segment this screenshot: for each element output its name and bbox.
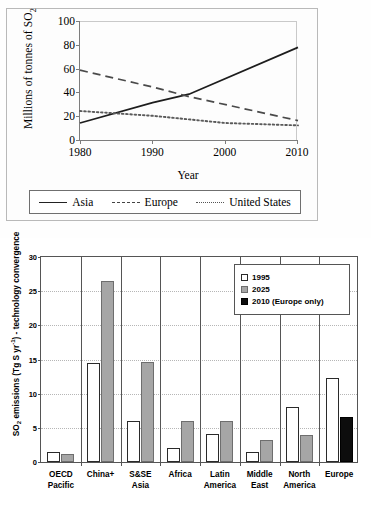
xtick-line1: North xyxy=(283,469,315,480)
bar-2025-middle xyxy=(260,440,273,462)
bar-chart-legend: 1995 2025 2010 (Europe only) xyxy=(234,264,350,315)
bar-2025-north xyxy=(300,435,313,462)
xtick-line1: Africa xyxy=(169,469,192,480)
xtick-line2: Pacific xyxy=(48,480,74,491)
dotted-line-icon xyxy=(196,202,224,203)
xtick-line2: America xyxy=(204,480,236,491)
legend-label-2010: 2010 (Europe only) xyxy=(252,297,324,306)
black-square-icon xyxy=(241,298,248,305)
legend-item-1995: 1995 xyxy=(241,273,343,282)
bar-1995-china xyxy=(87,363,100,462)
bar-ytick-mark-0 xyxy=(38,462,41,463)
series-line-asia xyxy=(80,47,298,123)
xtick-line2: East xyxy=(247,480,273,491)
line-y-label-subscript: 2 xyxy=(29,8,38,12)
bar-xtick-africa: Africa xyxy=(169,469,192,480)
bar-y-label-rest: emissions (Tg S yr xyxy=(11,345,21,421)
bar-y-label-sup: -1 xyxy=(10,339,16,344)
xtick-line1: S&SE xyxy=(129,469,151,480)
bar-1995-north xyxy=(286,407,299,462)
line-chart-figure: Millions of tonnes of SO2 0 20 40 60 80 … xyxy=(6,8,318,221)
category-separator-3 xyxy=(160,257,161,462)
bar-xtick-sse: S&SEAsia xyxy=(129,469,151,491)
bar-ytick-mark-15 xyxy=(38,360,41,361)
bar-xtick-mark-1 xyxy=(81,462,82,466)
line-xtick-2000: 2000 xyxy=(213,146,236,158)
white-square-icon xyxy=(241,274,248,281)
xtick-line1: OECD xyxy=(48,469,74,480)
line-chart-series-group xyxy=(80,21,298,141)
bar-1995-oecd xyxy=(47,452,60,462)
category-separator-4 xyxy=(200,257,201,462)
legend-label-united-states: United States xyxy=(229,196,291,208)
bar-ytick-mark-25 xyxy=(38,291,41,292)
category-separator-1 xyxy=(81,257,82,462)
bar-xtick-north: NorthAmerica xyxy=(283,469,315,491)
bar-xtick-middle: MiddleEast xyxy=(247,469,273,491)
bar-2025-sse xyxy=(141,362,154,462)
bar-ytick-mark-5 xyxy=(38,428,41,429)
legend-label-1995: 1995 xyxy=(252,273,270,282)
bar-xtick-mark-4 xyxy=(200,462,201,466)
bar-xtick-mark-6 xyxy=(280,462,281,466)
line-xtick-1980: 1980 xyxy=(69,146,92,158)
bar-chart-figure: SO2 emissions (Tg S yr-1) - technology c… xyxy=(0,238,371,509)
bar-1995-europe xyxy=(326,378,339,462)
legend-item-asia: Asia xyxy=(39,196,93,208)
dashed-line-icon xyxy=(112,202,140,203)
bar-y-label-tail: ) - technology convergence xyxy=(11,232,21,340)
line-chart-plot-area: 0 20 40 60 80 100 1980 1990 2000 2010 xyxy=(79,21,297,141)
bar-xtick-mark-7 xyxy=(319,462,320,466)
bar-y-label-sub: 2 xyxy=(16,421,22,424)
bar-xtick-latin: LatinAmerica xyxy=(204,469,236,491)
bar-1995-middle xyxy=(246,452,259,462)
legend-item-united-states: United States xyxy=(196,196,291,208)
bar-2025-latin xyxy=(220,421,233,462)
bar-1995-africa xyxy=(167,448,180,462)
bar-xtick-mark-3 xyxy=(160,462,161,466)
legend-label-2025: 2025 xyxy=(252,285,270,294)
bar-2010-europe xyxy=(340,417,353,463)
line-chart-x-axis-label: Year xyxy=(79,169,297,181)
legend-item-2010-europe-only: 2010 (Europe only) xyxy=(241,297,343,306)
legend-label-asia: Asia xyxy=(72,196,93,208)
bar-2025-china xyxy=(101,281,114,463)
xtick-line1: China+ xyxy=(87,469,115,480)
gray-square-icon xyxy=(241,286,248,293)
bar-1995-latin xyxy=(206,434,219,462)
bar-xtick-mark-5 xyxy=(240,462,241,466)
xtick-line1: Europe xyxy=(325,469,353,480)
line-chart-legend: Asia Europe United States xyxy=(29,190,301,214)
bar-2025-oecd xyxy=(61,454,74,462)
bar-chart-plot-area: 051015202530 OECDPacificChina+S&SEAsiaAf… xyxy=(40,256,358,463)
category-separator-2 xyxy=(121,257,122,462)
xtick-line1: Latin xyxy=(204,469,236,480)
xtick-line2: America xyxy=(283,480,315,491)
bar-xtick-mark-2 xyxy=(121,462,122,466)
bar-ytick-mark-20 xyxy=(38,325,41,326)
gridline-15 xyxy=(41,360,357,361)
bar-ytick-mark-30 xyxy=(38,257,41,258)
line-chart-y-axis-label: Millions of tonnes of SO2 xyxy=(22,0,37,144)
legend-item-europe: Europe xyxy=(112,196,178,208)
solid-line-icon xyxy=(39,202,67,203)
bar-xtick-oecd: OECDPacific xyxy=(48,469,74,491)
xtick-line1: Middle xyxy=(247,469,273,480)
figure-page: Millions of tonnes of SO2 0 20 40 60 80 … xyxy=(0,0,371,509)
bar-xtick-europe: Europe xyxy=(325,469,353,480)
xtick-line2: Asia xyxy=(129,480,151,491)
bar-2025-africa xyxy=(181,421,194,462)
line-xtick-1990: 1990 xyxy=(141,146,164,158)
bar-xtick-china: China+ xyxy=(87,469,115,480)
legend-item-2025: 2025 xyxy=(241,285,343,294)
line-xtick-2010: 2010 xyxy=(286,146,309,158)
bar-y-label-main: SO xyxy=(11,424,21,436)
bar-chart-y-axis-label: SO2 emissions (Tg S yr-1) - technology c… xyxy=(10,236,22,436)
gridline-20 xyxy=(41,325,357,326)
legend-label-europe: Europe xyxy=(145,196,178,208)
line-y-label-text: Millions of tonnes of SO xyxy=(22,12,34,129)
bar-1995-sse xyxy=(127,421,140,462)
series-line-united-states xyxy=(80,111,298,125)
bar-ytick-mark-10 xyxy=(38,394,41,395)
